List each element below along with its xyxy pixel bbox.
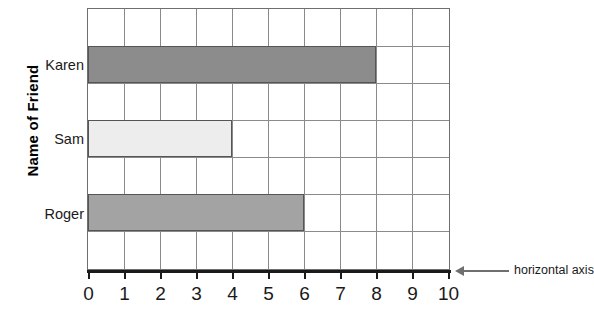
- x-axis-tick-label: 8: [357, 284, 397, 303]
- x-axis-tick-label: 10: [429, 284, 469, 303]
- annotation-leader-line: [461, 270, 509, 272]
- x-axis-tick: [376, 270, 378, 279]
- x-axis-tick: [304, 270, 306, 279]
- x-axis-tick: [232, 270, 234, 279]
- x-axis-tick-label: 9: [393, 284, 433, 303]
- gridline-vertical: [412, 9, 413, 269]
- x-axis-tick: [268, 270, 270, 279]
- x-axis-tick: [340, 270, 342, 279]
- x-axis-tick-label: 6: [285, 284, 325, 303]
- x-axis-tick-label: 2: [141, 284, 181, 303]
- category-label-roger: Roger: [8, 207, 84, 222]
- gridline-vertical: [376, 9, 377, 269]
- bar-roger: [88, 194, 304, 231]
- plot-area: [87, 8, 450, 270]
- x-axis-tick: [124, 270, 126, 279]
- bar-karen: [88, 46, 376, 83]
- x-axis-tick: [196, 270, 198, 279]
- gridline-horizontal: [88, 231, 449, 232]
- annotation-label-horizontal-axis: horizontal axis: [514, 263, 594, 277]
- x-axis-tick: [160, 270, 162, 279]
- x-axis-tick-label: 0: [69, 284, 109, 303]
- x-axis-tick-label: 3: [177, 284, 217, 303]
- x-axis-tick-label: 5: [249, 284, 289, 303]
- category-label-karen: Karen: [8, 58, 84, 73]
- gridline-horizontal: [88, 157, 449, 158]
- x-axis-tick: [448, 270, 450, 279]
- x-axis-tick-label: 7: [321, 284, 361, 303]
- x-axis-tick-label: 1: [105, 284, 145, 303]
- category-label-sam: Sam: [8, 132, 84, 147]
- x-axis-tick: [412, 270, 414, 279]
- bar-sam: [88, 120, 232, 157]
- x-axis-tick: [88, 270, 90, 279]
- x-axis-tick-label: 4: [213, 284, 253, 303]
- category-label-group: Karen Sam Roger: [4, 0, 84, 270]
- gridline-horizontal: [88, 83, 449, 84]
- annotation-arrow-icon: [455, 266, 464, 276]
